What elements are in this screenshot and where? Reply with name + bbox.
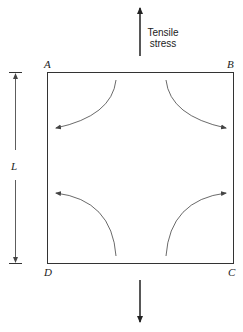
corner-label-c: C (228, 266, 235, 278)
square-element (48, 73, 234, 264)
curve-arrow-top-left (56, 80, 116, 128)
corner-label-b: B (227, 58, 234, 70)
dimension-label-l: L (10, 160, 18, 172)
tensile-stress-label: Tensile stress (145, 27, 181, 49)
stress-label-line1: Tensile (145, 27, 181, 38)
corner-label-d: D (44, 266, 52, 278)
corner-label-a: A (44, 58, 51, 70)
curve-arrow-bottom-right (166, 193, 226, 256)
curve-arrow-top-right (166, 80, 226, 128)
stress-label-line2: stress (145, 38, 181, 49)
diagram-canvas (0, 0, 243, 332)
curve-arrow-bottom-left (56, 193, 116, 256)
